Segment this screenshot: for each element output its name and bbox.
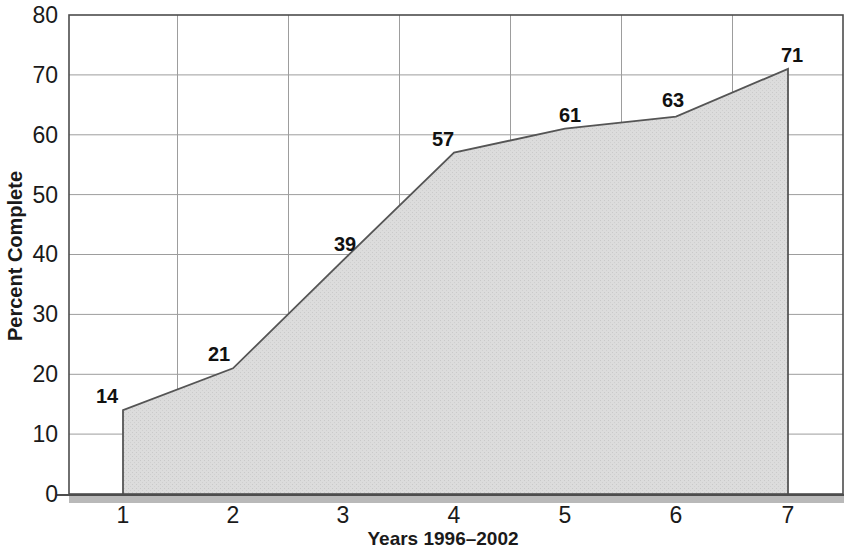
area-chart: 80 70 60 50 40 30 20 10 0 1 2 3 4 5 6 7 … (0, 0, 844, 552)
data-label: 14 (96, 385, 119, 407)
x-tick-labels: 1 2 3 4 5 6 7 (117, 502, 795, 528)
data-label: 21 (208, 343, 230, 365)
data-label: 61 (559, 104, 581, 126)
y-tick-label: 60 (32, 122, 58, 148)
y-tick-label: 70 (32, 62, 58, 88)
chart-canvas: 80 70 60 50 40 30 20 10 0 1 2 3 4 5 6 7 … (0, 0, 844, 552)
x-tick-label: 2 (227, 502, 240, 528)
y-tick-label: 20 (32, 361, 58, 387)
y-tick-label: 10 (32, 421, 58, 447)
data-label: 57 (432, 128, 454, 150)
x-tick-label: 4 (448, 502, 461, 528)
y-tick-labels: 80 70 60 50 40 30 20 10 0 (32, 2, 58, 507)
x-tick-label: 1 (117, 502, 130, 528)
y-tick-label: 80 (32, 2, 58, 28)
y-axis-title: Percent Complete (4, 171, 26, 341)
y-tick-label: 30 (32, 301, 58, 327)
y-tick-label: 0 (45, 481, 58, 507)
data-label: 71 (781, 44, 803, 66)
y-tick-label: 50 (32, 182, 58, 208)
x-tick-label: 7 (782, 502, 795, 528)
data-label: 39 (334, 233, 356, 255)
x-tick-label: 6 (670, 502, 683, 528)
y-tick-label: 40 (32, 241, 58, 267)
data-label: 63 (662, 89, 684, 111)
x-tick-label: 5 (559, 502, 572, 528)
x-axis-title: Years 1996–2002 (367, 528, 518, 549)
x-tick-label: 3 (337, 502, 350, 528)
